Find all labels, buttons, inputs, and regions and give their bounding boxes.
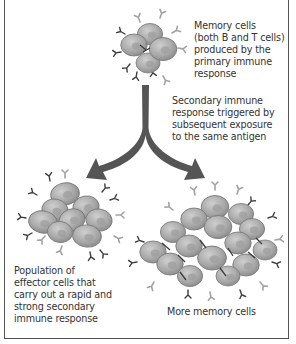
effector-cells-cluster — [18, 170, 124, 260]
more-memory-cells-cluster — [129, 182, 284, 300]
memory-cells-cluster-top — [113, 9, 187, 84]
secondary-response-label: Secondary immune response triggered by s… — [172, 95, 274, 143]
memory-cells-top-label: Memory cells (both B and T cells) produc… — [194, 20, 284, 80]
more-memory-cells-label: More memory cells — [167, 306, 256, 318]
effector-cells-label: Population of effector cells that carry … — [14, 265, 112, 325]
